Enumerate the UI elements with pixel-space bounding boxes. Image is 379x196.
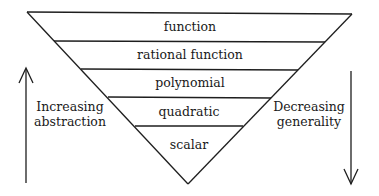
left-annotation-line2: abstraction — [34, 114, 106, 129]
level-divider-2 — [81, 69, 298, 70]
level-label-scalar: scalar — [170, 137, 208, 152]
up-arrow-icon — [19, 68, 33, 183]
pyramid-top-edge — [27, 12, 352, 14]
level-label-polynomial: polynomial — [155, 75, 224, 90]
down-arrow-icon — [344, 71, 358, 184]
inverted-pyramid — [27, 12, 352, 184]
abstraction-pyramid-diagram: function rational function polynomial qu… — [0, 0, 379, 196]
level-label-function: function — [164, 19, 216, 34]
pyramid-levels: function rational function polynomial qu… — [137, 19, 243, 152]
right-annotation-line1: Decreasing — [273, 99, 345, 114]
level-label-rational-function: rational function — [137, 47, 243, 62]
left-annotation: Increasing abstraction — [34, 99, 106, 129]
pyramid-left-edge — [27, 12, 188, 184]
level-divider-3 — [108, 97, 271, 98]
level-divider-1 — [54, 41, 325, 42]
right-annotation-line2: generality — [277, 114, 342, 129]
left-annotation-line1: Increasing — [36, 99, 103, 114]
level-label-quadratic: quadratic — [159, 104, 220, 119]
right-annotation: Decreasing generality — [273, 99, 345, 129]
